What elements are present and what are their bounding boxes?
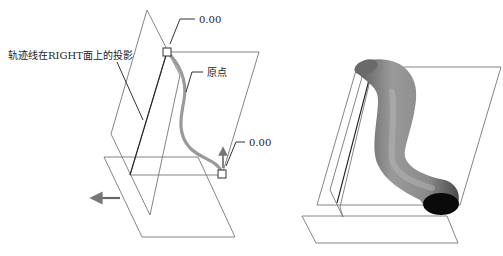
projection-line-3d — [337, 76, 370, 203]
left-figure: 0.00 原点 0.00 轨迹线在RIGHT面上的投影 — [8, 10, 271, 237]
end-value-leader — [226, 142, 245, 166]
top-datum-plane-3d — [302, 216, 458, 243]
start-value-leader — [170, 19, 195, 44]
end-value-label: 0.00 — [249, 137, 271, 148]
start-value-label: 0.00 — [199, 14, 221, 25]
start-point-marker[interactable] — [163, 48, 171, 56]
tube-end-cap — [423, 193, 459, 215]
top-datum-plane — [104, 157, 235, 237]
swept-tube — [356, 59, 459, 212]
origin-leader — [186, 72, 203, 92]
right-datum-plane — [111, 10, 180, 215]
projection-leader — [117, 62, 143, 120]
diagram-canvas: 0.00 原点 0.00 轨迹线在RIGHT面上的投影 — [0, 0, 503, 256]
end-point-marker[interactable] — [218, 170, 226, 178]
origin-label: 原点 — [207, 67, 227, 78]
right-figure — [302, 56, 501, 243]
projection-label: 轨迹线在RIGHT面上的投影 — [8, 49, 133, 61]
